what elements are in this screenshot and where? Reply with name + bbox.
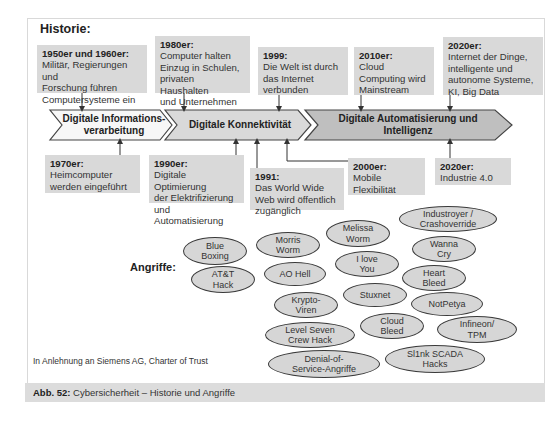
phase-label-3: Digitale Automatisierung und Intelligenz [318, 113, 498, 137]
source-note: In Anlehnung an Siemens AG, Charter of T… [33, 356, 208, 366]
attack-cloud-bleed: CloudBleed [360, 313, 424, 339]
attack-melissa-worm: MelissaWorm [326, 220, 390, 247]
event-box-2000er: 2000er: Mobile Flexibilität [348, 158, 425, 195]
phase-label-1: Digitale Informations- verarbeitung [62, 113, 166, 137]
event-box-1991: 1991: Das World Wide Web wird öffentlich… [250, 168, 344, 210]
caption-text: Cybersicherheit – Historie und Angriffe [70, 387, 235, 398]
attacks-label: Angriffe: [130, 261, 176, 273]
caption-label: Abb. 52: [33, 387, 70, 398]
attack-morris-worm: MorrisWorm [256, 232, 320, 258]
event-box-2020er-bottom: 2020er: Industrie 4.0 [435, 158, 511, 185]
event-box-1980er: 1980er: Computer halten Einzug in Schule… [155, 36, 250, 93]
figure-caption: Abb. 52: Cybersicherheit – Historie und … [25, 383, 545, 402]
attack-denial-of-service: Denial-of-Service-Angriffe [268, 350, 380, 378]
phase-label-2: Digitale Konnektivität [178, 119, 302, 131]
attack-infineon-tpm: Infineon/TPM [437, 316, 517, 343]
event-box-1950er: 1950er und 1960er: Militär, Regierungen … [37, 45, 147, 93]
event-box-1999: 1999: Die Welt ist durch das Internet ve… [258, 47, 348, 95]
attack-industroyer: Industroyer /Crashoverride [399, 206, 497, 232]
event-box-1990er: 1990er: Digitale Optimierung der Elektri… [149, 155, 244, 203]
attack-i-love-you: I loveYou [335, 251, 399, 277]
event-box-2020er-top: 2020er: Internet der Dinge, intelligente… [443, 37, 543, 95]
attack-wanna-cry: WannaCry [412, 236, 476, 262]
attack-att-hack: AT&THack [191, 266, 255, 293]
attack-krypto-viren: Krypto-Viren [274, 292, 338, 318]
attack-ao-hell: AO Hell [264, 262, 326, 286]
attack-blue-boxing: BlueBoxing [183, 237, 247, 265]
attack-sl1nk-scada-hacks: Sl1nk SCADAHacks [385, 345, 485, 373]
attack-level-seven-crew-hack: Level SevenCrew Hack [265, 322, 355, 348]
attack-heart-bleed: HeartBleed [402, 265, 466, 291]
event-box-2010er: 2010er: Cloud Computing wird Mainstream [354, 47, 434, 95]
attack-notpetya: NotPetya [411, 292, 483, 316]
event-box-1970er: 1970er: Heimcomputer werden eingeführt [45, 155, 140, 193]
attack-stuxnet: Stuxnet [343, 283, 407, 307]
